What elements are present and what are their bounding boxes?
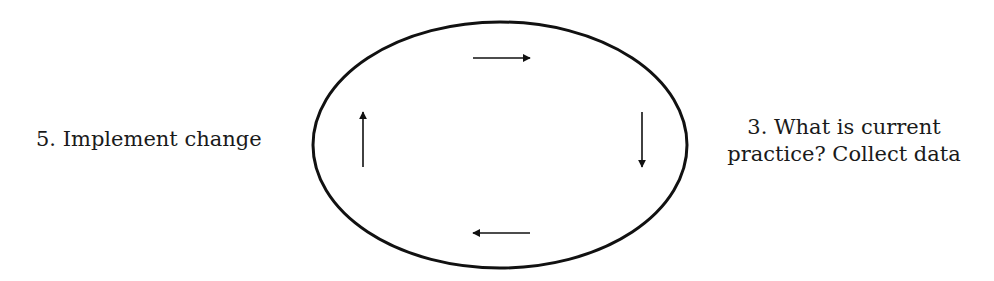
cycle-ellipse xyxy=(313,22,687,268)
step-3-label-line1: 3. What is current xyxy=(719,114,969,141)
step-3-label: 3. What is current practice? Collect dat… xyxy=(719,114,969,168)
step-3-label-line2: practice? Collect data xyxy=(719,141,969,168)
step-5-label: 5. Implement change xyxy=(36,126,262,153)
